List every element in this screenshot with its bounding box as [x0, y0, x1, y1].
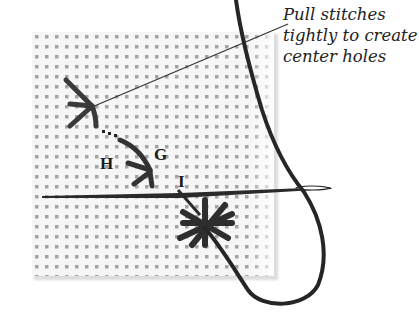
label-g: G	[154, 146, 167, 163]
label-i: I	[178, 173, 185, 190]
label-h: H	[100, 155, 113, 172]
callout-text: Pull stitches tightly to create center h…	[283, 4, 419, 67]
callout-line-3: center holes	[283, 46, 419, 67]
callout-line-2: tightly to create	[283, 25, 419, 46]
callout-line-1: Pull stitches	[283, 4, 419, 25]
stitch-diagram: Pull stitches tightly to create center h…	[0, 0, 419, 327]
